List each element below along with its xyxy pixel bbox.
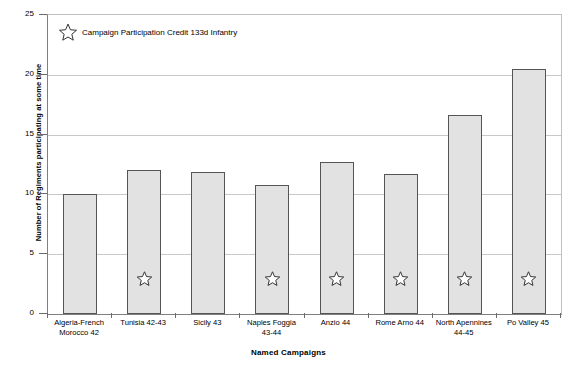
category-label-line: Algeria-French [47, 318, 111, 328]
gridline [48, 75, 561, 76]
bar [191, 172, 225, 314]
x-axis-category-label: Sicily 43 [175, 318, 239, 328]
star-icon [520, 270, 537, 287]
gridline [48, 254, 561, 255]
y-axis-tick [39, 313, 47, 314]
bar [127, 170, 161, 314]
category-label-line: Morocco 42 [47, 328, 111, 338]
category-label-line: Tunisia 42-43 [111, 318, 175, 328]
bar-chart: Number of Regiments participating at som… [0, 0, 577, 369]
x-axis-category-label: Tunisia 42-43 [111, 318, 175, 328]
category-label-line: North Apennines [432, 318, 496, 328]
x-axis-tick [560, 313, 561, 318]
category-label-line: Anzio 44 [304, 318, 368, 328]
bar [320, 162, 354, 314]
y-axis-tick-label: 15 [10, 130, 34, 138]
category-label-line: 43-44 [239, 328, 303, 338]
x-axis-category-label: Po Valley 45 [496, 318, 560, 328]
gridline [48, 135, 561, 136]
bar [384, 174, 418, 314]
y-axis-tick [39, 253, 47, 254]
category-label-line: Sicily 43 [175, 318, 239, 328]
y-axis-tick-label: 20 [10, 70, 34, 78]
y-axis-tick-label: 5 [10, 249, 34, 257]
y-axis-tick-label: 0 [10, 309, 34, 317]
star-icon [328, 270, 345, 287]
x-axis-category-label: Anzio 44 [304, 318, 368, 328]
x-axis-category-label: Rome Arno 44 [368, 318, 432, 328]
plot-area [47, 14, 562, 315]
bar [255, 185, 289, 314]
x-axis-category-label: Algeria-FrenchMorocco 42 [47, 318, 111, 338]
legend-label: Campaign Participation Credit 133d Infan… [82, 28, 237, 37]
star-icon [264, 270, 281, 287]
gridline [48, 194, 561, 195]
y-axis-tick [39, 134, 47, 135]
legend: Campaign Participation Credit 133d Infan… [58, 22, 237, 42]
category-label-line: Naples Foggia [239, 318, 303, 328]
y-axis-tick [39, 74, 47, 75]
star-icon [392, 270, 409, 287]
bar [63, 194, 97, 314]
star-icon [136, 270, 153, 287]
x-axis-category-label: North Apennines44-45 [432, 318, 496, 338]
y-axis-tick [39, 193, 47, 194]
y-axis-tick-label: 25 [10, 10, 34, 18]
star-icon [456, 270, 473, 287]
y-axis-tick [39, 14, 47, 15]
category-label-line: Rome Arno 44 [368, 318, 432, 328]
category-label-line: Po Valley 45 [496, 318, 560, 328]
x-axis-title: Named Campaigns [0, 348, 577, 357]
x-axis-category-label: Naples Foggia43-44 [239, 318, 303, 338]
y-axis-title: Number of Regiments participating at som… [34, 33, 43, 273]
y-axis-tick-label: 10 [10, 189, 34, 197]
star-icon [58, 22, 78, 42]
category-label-line: 44-45 [432, 328, 496, 338]
